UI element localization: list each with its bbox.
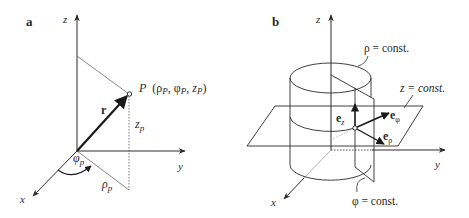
e-rho-label: eρ [383, 129, 392, 145]
e-rho-vector [355, 128, 384, 144]
z-axis-label: z [62, 13, 68, 25]
y-axis-b-label: y [434, 158, 440, 170]
rho-const-label: ρ = const. [364, 42, 409, 55]
e-z-label: ez [336, 111, 345, 127]
z-projection-line [77, 56, 129, 94]
x-axis-b-hidden [304, 150, 331, 178]
z-axis-b-label: z [315, 13, 321, 25]
phi-const-leader [357, 178, 365, 192]
panel-a-label: a [26, 14, 33, 29]
phi-const-label: φ = const. [352, 195, 398, 208]
x-axis-label: x [19, 193, 25, 205]
zp-label: zp [134, 117, 145, 133]
panel-b: b z y x ez [247, 13, 445, 208]
e-phi-label: eφ [390, 108, 400, 124]
rho-guide-line [331, 128, 355, 140]
point-b [353, 126, 357, 130]
cylindrical-coordinates-figure: a z y x r P (ρP, φP, zP) zp [0, 0, 469, 218]
rho-const-leader [358, 56, 368, 66]
phi-angle-arc [58, 166, 91, 175]
x-axis-b-label: x [270, 196, 276, 208]
cylinder-plane-intersection [290, 117, 355, 131]
r-vector-label: r [101, 103, 107, 117]
e-phi-vector [355, 113, 389, 128]
panel-b-label: b [272, 14, 279, 29]
z-const-plane [247, 106, 423, 146]
x-axis [33, 151, 77, 196]
rho-p-label: ρp [101, 177, 113, 193]
z-const-label: z = const. [399, 82, 445, 94]
point-p-label: P (ρP, φP, zP) [138, 81, 206, 96]
x-axis-b [284, 178, 304, 199]
y-axis-label: y [177, 160, 183, 172]
point-p [127, 92, 131, 96]
cylinder-bottom-edge [290, 165, 371, 180]
phi-p-label: φp [73, 151, 85, 167]
panel-a: a z y x r P (ρP, φP, zP) zp [19, 13, 206, 205]
